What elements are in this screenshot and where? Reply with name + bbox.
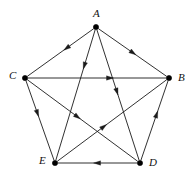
edges-group — [26, 29, 168, 163]
arrowheads-group — [34, 44, 158, 165]
vertex-b — [166, 75, 171, 80]
vertex-label-a: A — [93, 8, 100, 19]
arrowhead-d-to-b — [153, 111, 157, 118]
arrowhead-c-to-d — [73, 113, 80, 119]
vertex-c — [22, 75, 27, 80]
edge-e-to-b — [58, 80, 167, 161]
arrowhead-d-to-e — [94, 161, 101, 165]
vertex-label-b: B — [178, 72, 185, 83]
edge-d-to-b — [141, 81, 168, 160]
edge-c-to-e — [26, 81, 54, 160]
vertex-label-d: D — [149, 157, 157, 168]
arrowhead-a-to-b — [129, 49, 136, 55]
vertex-label-e: E — [39, 155, 46, 166]
edge-c-to-d — [28, 80, 138, 161]
vertex-d — [137, 160, 142, 165]
arrowhead-a-to-c — [64, 44, 71, 50]
arrowhead-a-to-d — [114, 88, 118, 95]
arrowhead-c-to-e — [34, 109, 38, 116]
vertex-a — [93, 24, 98, 29]
vertex-label-c: C — [9, 70, 16, 81]
directed-graph-figure: ABCDE — [0, 0, 194, 183]
arrowhead-e-to-b — [100, 125, 107, 131]
arrowhead-a-to-e — [83, 62, 87, 69]
edge-a-to-e — [56, 30, 95, 160]
vertex-e — [52, 160, 57, 165]
vertices-group — [22, 24, 171, 165]
graph-canvas — [0, 0, 194, 183]
